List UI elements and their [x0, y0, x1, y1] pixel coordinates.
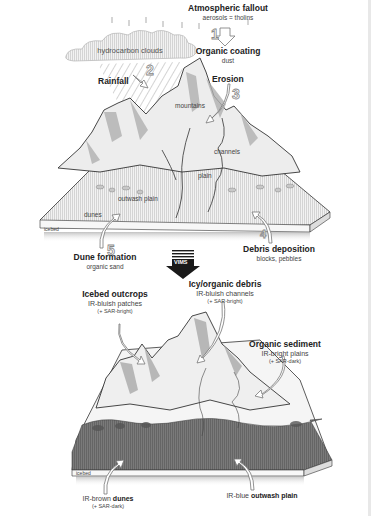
icy-organic-debris-line1: IR-bluish channels — [180, 290, 270, 298]
icy-organic-debris-line2: (+ SAR-bright) — [180, 298, 270, 304]
channels-label: channels — [214, 148, 240, 155]
atmospheric-fallout-label: Atmospheric fallout aerosols = tholins — [178, 4, 278, 21]
step-number-4: 4 — [260, 228, 266, 240]
organic-sediment-line2: (+ SAR-dark) — [240, 358, 330, 364]
rainfall-label: Rainfall — [98, 77, 129, 87]
organic-coating-title: Organic coating — [188, 47, 268, 57]
vims-label: VIMS — [174, 259, 187, 265]
step-number-2: 2 — [146, 62, 154, 78]
dune-formation-subtitle: organic sand — [60, 263, 150, 270]
plain-label: plain — [198, 172, 212, 179]
organic-sediment-title: Organic sediment — [240, 340, 330, 350]
atmospheric-fallout-title: Atmospheric fallout — [178, 4, 278, 14]
icy-organic-debris-title: Icy/organic debris — [180, 280, 270, 290]
ir-brown-dunes-title: dunes — [113, 495, 134, 502]
ir-blue-outwash-label: IR-blue outwash plain — [212, 492, 312, 500]
ir-brown-dunes-prefix: IR-brown — [83, 495, 113, 502]
organic-sediment-label: Organic sediment IR-bright plains (+ SAR… — [240, 340, 330, 364]
mountains-label: mountains — [175, 102, 205, 109]
dune-formation-label: Dune formation organic sand — [60, 253, 150, 270]
organic-sediment-line1: IR-bright plains — [240, 350, 330, 358]
dune-formation-title: Dune formation — [60, 253, 150, 263]
ir-blue-outwash-prefix: IR-blue — [226, 492, 251, 499]
dunes-label: dunes — [84, 211, 102, 218]
erosion-label: Erosion — [212, 75, 244, 85]
organic-coating-label: Organic coating dust — [188, 47, 268, 64]
icebed-outcrops-line1: IR-bluish patches — [70, 300, 160, 308]
debris-deposition-title: Debris deposition — [234, 245, 324, 255]
step-number-3: 3 — [232, 86, 240, 102]
ir-brown-dunes-label: IR-brown dunes (+ SAR-dark) — [68, 495, 148, 509]
icebed-outcrops-label: Icebed outcrops IR-bluish patches (+ SAR… — [70, 290, 160, 314]
icebed-outcrops-line2: (+ SAR-bright) — [70, 308, 160, 314]
outwash-plain-label: outwash plain — [118, 195, 158, 202]
organic-coating-subtitle: dust — [188, 57, 268, 64]
icy-organic-debris-label: Icy/organic debris IR-bluish channels (+… — [180, 280, 270, 304]
debris-deposition-subtitle: blocks, pebbles — [234, 255, 324, 262]
upper-icebed-label: icebed — [44, 226, 59, 232]
atmospheric-fallout-subtitle: aerosols = tholins — [178, 14, 278, 21]
ir-brown-dunes-line2: (+ SAR-dark) — [68, 503, 148, 509]
hydrocarbon-clouds-label: hydrocarbon clouds — [90, 47, 170, 56]
ir-blue-outwash-title: outwash plain — [251, 492, 298, 499]
debris-deposition-label: Debris deposition blocks, pebbles — [234, 245, 324, 262]
lower-icebed-label: icebed — [76, 470, 91, 476]
step-number-1: 1 — [211, 26, 219, 42]
icebed-outcrops-title: Icebed outcrops — [70, 290, 160, 300]
